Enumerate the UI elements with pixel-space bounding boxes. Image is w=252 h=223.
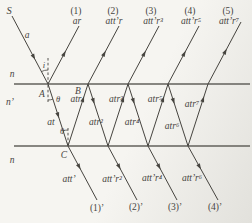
refraction-angle-label-A: θ xyxy=(56,94,60,104)
refraction-angle-label-C: θ xyxy=(60,126,64,136)
reflected-amplitude-2-label: att’r xyxy=(106,16,123,26)
internal-amplitude-at: at xyxy=(47,117,55,127)
internal-amplitude-atr: atr xyxy=(70,94,81,104)
internal-amplitude-atr7: atr⁷ xyxy=(185,99,200,109)
reflected-amplitude-5-label: att’r⁷ xyxy=(219,16,240,26)
transmitted-amplitude-3-label: att’r⁴ xyxy=(142,173,163,183)
internal-amplitude-atr6: atr⁶ xyxy=(165,121,179,131)
source-label: S xyxy=(6,5,12,16)
transmitted-ray-4-arrowhead xyxy=(196,163,201,169)
reflected-ray-3-arrowhead xyxy=(141,51,146,57)
reflected-amplitude-4-label: att’r⁵ xyxy=(181,16,202,26)
internal-amplitude-atr2: atr² xyxy=(89,117,103,127)
transmitted-ray-1-arrowhead xyxy=(76,163,81,169)
internal-ray-up-4 xyxy=(188,84,208,146)
reflected-ray-4-arrowhead xyxy=(181,51,186,57)
point-A-label: A xyxy=(38,89,45,99)
incident-amplitude-label: a xyxy=(25,30,30,40)
refraction-angle-arc-A xyxy=(48,99,53,100)
transmitted-amplitude-2-label: att’r² xyxy=(102,174,122,184)
internal-amplitude-atr4: atr⁴ xyxy=(125,117,140,127)
transmitted-order-3-label: (3)’ xyxy=(168,202,182,213)
incidence-angle-label: i xyxy=(43,60,46,70)
internal-ray-up-4-arrowhead xyxy=(200,96,204,102)
transmitted-order-4-label: (4)’ xyxy=(208,202,222,213)
incident-ray xyxy=(12,16,48,84)
transmitted-ray-2 xyxy=(108,146,137,200)
internal-amplitude-atr3: atr³ xyxy=(109,94,123,104)
multiple-reflection-optics-diagram: Sann’nABCiθθatatratr²atr³atr⁴atr⁵atr⁶atr… xyxy=(0,0,252,223)
internal-ray-down-2-arrowhead xyxy=(91,98,95,104)
transmitted-amplitude-4-label: att’r⁶ xyxy=(182,173,202,183)
reflected-amplitude-3-label: att’r³ xyxy=(143,16,163,26)
transmitted-ray-3-arrowhead xyxy=(156,163,161,169)
reflected-amplitude-1-label: ar xyxy=(73,16,82,26)
transmitted-ray-2-arrowhead xyxy=(116,163,121,169)
transmitted-ray-1 xyxy=(68,146,97,200)
reflected-ray-5-arrowhead xyxy=(222,49,227,55)
transmitted-order-1-label: (1)’ xyxy=(90,203,104,214)
internal-ray-down-1-arrowhead xyxy=(55,112,59,118)
internal-ray-down-2 xyxy=(88,84,108,146)
internal-ray-down-3 xyxy=(128,84,148,146)
transmitted-order-2-label: (2)’ xyxy=(129,202,143,213)
internal-ray-down-4 xyxy=(168,84,188,146)
film-index-label: n’ xyxy=(6,97,14,107)
incident-ray-arrowhead xyxy=(31,54,36,60)
reflected-ray-1-arrowhead xyxy=(61,51,66,57)
medium-n-bottom-label: n xyxy=(10,155,15,165)
internal-ray-down-3-arrowhead xyxy=(131,98,135,104)
medium-n-top-label: n xyxy=(10,69,15,79)
reflected-ray-2-arrowhead xyxy=(101,51,106,57)
internal-amplitude-atr5: atr⁵ xyxy=(148,94,163,104)
figure-page: Sann’nABCiθθatatratr²atr³atr⁴atr⁵atr⁶atr… xyxy=(0,0,252,223)
incidence-angle-arc xyxy=(41,70,48,72)
internal-ray-down-4-arrowhead xyxy=(171,98,175,104)
point-C-label: C xyxy=(61,150,68,160)
transmitted-amplitude-1-label: att’ xyxy=(62,174,75,184)
